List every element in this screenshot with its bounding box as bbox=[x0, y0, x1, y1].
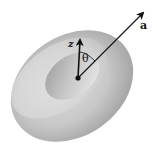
vector-a-label: a bbox=[140, 19, 147, 32]
origin-dot bbox=[75, 75, 80, 80]
torus-diagram: z θ a bbox=[0, 0, 157, 160]
z-axis-label: z bbox=[67, 38, 74, 49]
torus-body bbox=[0, 7, 155, 160]
angle-theta-label: θ bbox=[82, 52, 89, 65]
